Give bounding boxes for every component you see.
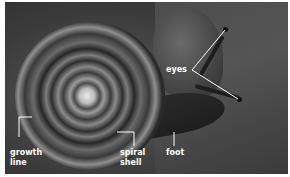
- eyes-leader-lower: [192, 70, 238, 99]
- label-eyes: eyes: [166, 65, 187, 75]
- label-spiral-shell-1: spiral: [120, 148, 145, 158]
- spiral-shell-leader: [117, 132, 134, 146]
- label-foot: foot: [166, 148, 184, 158]
- eyes-leader-upper: [192, 30, 225, 70]
- label-spiral-shell: spiral shell: [120, 148, 145, 168]
- label-growth-line-1: growth: [10, 148, 42, 158]
- growth-line-leader: [19, 117, 32, 137]
- label-growth-line: growth line: [10, 148, 42, 168]
- label-growth-line-2: line: [10, 158, 42, 168]
- label-spiral-shell-2: shell: [120, 158, 145, 168]
